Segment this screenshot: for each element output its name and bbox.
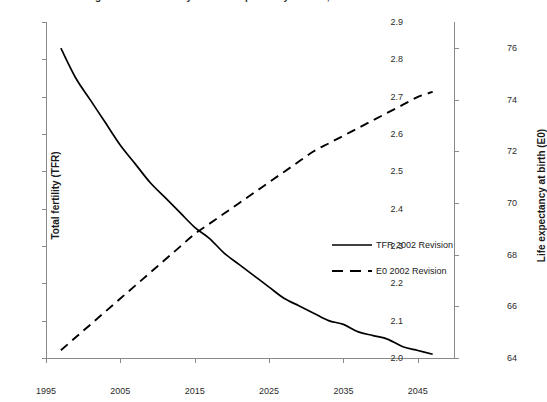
y-axis-right-tick-label: 66 <box>507 301 517 311</box>
y-axis-left-title: Total fertility (TFR) <box>50 111 61 281</box>
y-axis-right-tick <box>455 306 459 307</box>
x-axis-tick-label: 2005 <box>110 386 130 396</box>
legend-swatch-dashed-icon <box>332 266 372 276</box>
y-axis-right-tick-label: 74 <box>507 95 517 105</box>
y-axis-right-tick <box>455 151 459 152</box>
x-axis-tick-label: 2045 <box>408 386 428 396</box>
line-e0-2002-revision <box>61 92 433 350</box>
legend-label-e0: E0 2002 Revision <box>372 266 447 276</box>
x-axis-tick <box>418 359 419 363</box>
y-axis-right-tick <box>455 100 459 101</box>
y-axis-right-tick-label: 70 <box>507 198 517 208</box>
x-axis-tick-label: 2035 <box>333 386 353 396</box>
x-axis-tick-label: 1995 <box>36 386 56 396</box>
x-axis-tick-label: 2015 <box>185 386 205 396</box>
legend-swatch-solid-icon <box>332 240 372 250</box>
line-tfr-2002-revision <box>61 48 433 354</box>
x-axis-tick <box>269 359 270 363</box>
legend-item-e0: E0 2002 Revision <box>332 258 482 284</box>
chart-title: Figure 3. Total fertility and life expec… <box>0 0 494 3</box>
y-axis-right-tick-label: 76 <box>507 43 517 53</box>
x-axis-tick-label: 2025 <box>259 386 279 396</box>
y-axis-right-tick <box>455 48 459 49</box>
y-axis-right-tick-label: 72 <box>507 146 517 156</box>
x-axis-tick <box>46 359 47 363</box>
x-axis-tick <box>120 359 121 363</box>
x-axis-tick <box>195 359 196 363</box>
legend-item-tfr: TFR 2002 Revision <box>332 232 482 258</box>
series-plot <box>46 22 455 358</box>
x-axis-tick <box>343 359 344 363</box>
y-axis-right-title: Life expectancy at birth (E0) <box>536 86 547 306</box>
y-axis-right-tick-label: 64 <box>507 353 517 363</box>
y-axis-right-tick <box>455 358 459 359</box>
y-axis-right-tick <box>455 203 459 204</box>
legend-label-tfr: TFR 2002 Revision <box>372 240 453 250</box>
y-axis-right-tick-label: 68 <box>507 250 517 260</box>
plot-area: 2.02.12.22.32.42.52.62.72.82.9 646668707… <box>46 22 455 358</box>
chart-legend: TFR 2002 Revision E0 2002 Revision <box>332 232 482 284</box>
